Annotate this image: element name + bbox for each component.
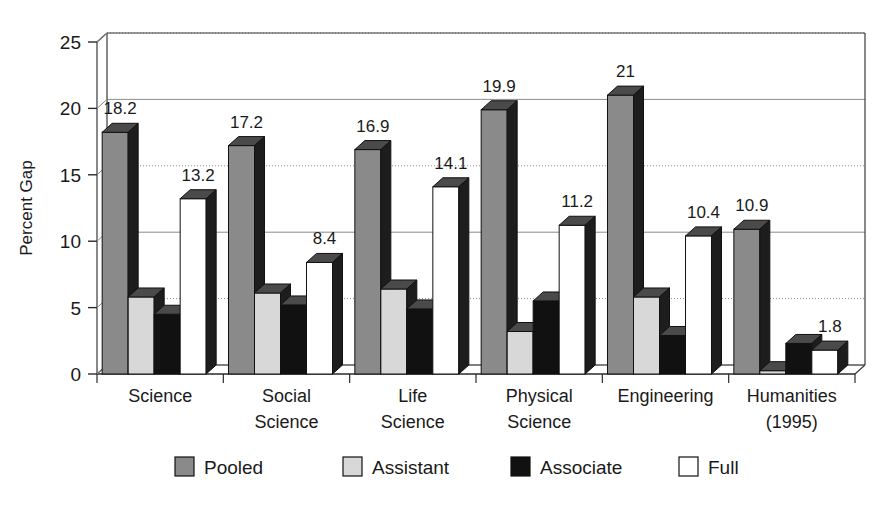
bar-front-face — [381, 289, 407, 374]
bar-value-label: 10.9 — [735, 196, 768, 215]
category-label: (1995) — [766, 412, 818, 432]
bar — [686, 227, 722, 374]
bar-value-label: 11.2 — [561, 192, 593, 211]
y-tick-label: 25 — [60, 32, 81, 53]
y-tick-label: 20 — [60, 98, 81, 119]
bar-side-face — [459, 178, 469, 374]
y-tick-label: 10 — [60, 231, 81, 252]
legend-item: Pooled — [175, 457, 263, 478]
bar-value-label: 8.4 — [313, 229, 337, 248]
legend-label: Assistant — [372, 457, 450, 478]
y-tick-label: 15 — [60, 165, 81, 186]
bar-front-face — [559, 225, 585, 374]
bar-front-face — [229, 146, 255, 374]
bar-value-label: 13.2 — [182, 166, 215, 185]
bar-front-face — [102, 132, 128, 374]
bar-value-label: 17.2 — [230, 113, 263, 132]
category-label: Science — [254, 412, 318, 432]
bar-front-face — [255, 293, 281, 374]
legend-label: Associate — [540, 457, 622, 478]
category-label: Humanities — [747, 386, 837, 406]
category-label: Science — [381, 412, 445, 432]
bar-front-face — [734, 229, 760, 374]
legend-swatch — [511, 457, 530, 476]
bar-front-face — [812, 350, 838, 374]
bar — [559, 216, 595, 374]
category-label: Life — [398, 386, 427, 406]
bar-value-label: 19.9 — [483, 77, 516, 96]
category-label: Science — [128, 386, 192, 406]
bar — [180, 190, 216, 374]
bar-front-face — [481, 110, 507, 374]
bar — [734, 220, 770, 374]
bar-front-face — [355, 150, 381, 374]
legend-item: Associate — [511, 457, 622, 478]
bar-value-label: 18.2 — [104, 99, 137, 118]
bar-value-label: 1.8 — [818, 317, 842, 336]
bar-front-face — [660, 335, 686, 374]
bar-front-face — [608, 95, 634, 374]
legend-item: Assistant — [343, 457, 450, 478]
bar-side-face — [760, 220, 770, 374]
bar-front-face — [686, 236, 712, 374]
bar-front-face — [407, 309, 433, 374]
category-label: Engineering — [617, 386, 713, 406]
y-tick-label: 0 — [70, 364, 81, 385]
category-label: Science — [507, 412, 571, 432]
bar-side-face — [585, 216, 595, 374]
bar-value-label: 14.1 — [434, 154, 467, 173]
bar-front-face — [307, 262, 333, 374]
legend-label: Pooled — [204, 457, 263, 478]
legend-item: Full — [679, 457, 739, 478]
bar-side-face — [206, 190, 216, 374]
chart-canvas: 0510152025 18.213.217.28.416.914.119.911… — [0, 0, 889, 519]
bar-value-label: 10.4 — [687, 203, 720, 222]
bar-front-face — [634, 297, 660, 374]
bar-front-face — [180, 199, 206, 374]
bar — [433, 178, 469, 374]
category-label: Physical — [506, 386, 573, 406]
bar-front-face — [128, 297, 154, 374]
y-tick-label: 5 — [70, 298, 81, 319]
legend-swatch — [175, 457, 194, 476]
y-axis-title: Percent Gap — [17, 160, 36, 255]
bar-front-face — [533, 301, 559, 374]
legend-swatch — [343, 457, 362, 476]
legend-swatch — [679, 457, 698, 476]
bar-front-face — [507, 332, 533, 374]
y-axis-title-text: Percent Gap — [17, 160, 36, 255]
bar — [812, 341, 848, 374]
bar-value-label: 16.9 — [356, 117, 389, 136]
bar-chart: 0510152025 18.213.217.28.416.914.119.911… — [0, 0, 889, 519]
bar-side-face — [712, 227, 722, 374]
bar-front-face — [786, 343, 812, 374]
bar-side-face — [333, 253, 343, 374]
bar-front-face — [154, 314, 180, 374]
bar-value-label: 21 — [616, 62, 635, 81]
category-label: Social — [262, 386, 311, 406]
legend-label: Full — [708, 457, 739, 478]
bar-front-face — [433, 187, 459, 374]
bar — [307, 253, 343, 374]
bar-front-face — [281, 305, 307, 374]
